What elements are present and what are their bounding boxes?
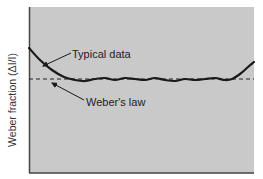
typical-data-label: Typical data xyxy=(72,48,132,60)
weber-fraction-chart: Typical data Weber's law Weber fraction … xyxy=(0,0,263,179)
plot-area xyxy=(29,7,254,173)
y-axis-label-container: Weber fraction (ΔI/I) xyxy=(2,90,22,110)
chart-svg: Typical data Weber's law xyxy=(0,0,263,179)
webers-law-label: Weber's law xyxy=(86,96,145,108)
y-axis-label: Weber fraction (ΔI/I) xyxy=(6,53,18,147)
